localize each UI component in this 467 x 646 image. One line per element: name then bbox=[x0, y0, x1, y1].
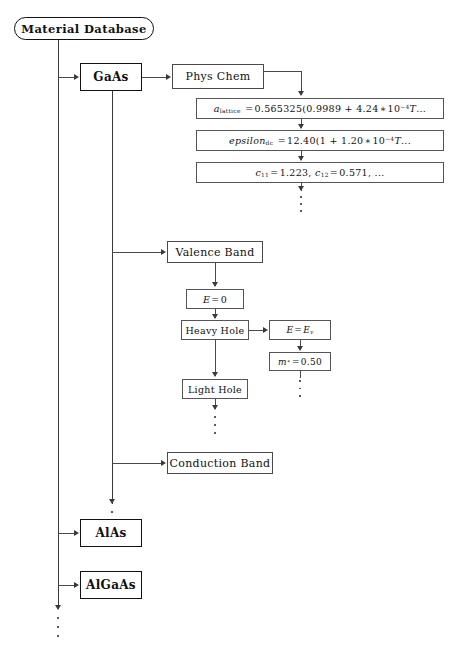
node-heavy-hole[interactable]: Heavy Hole bbox=[181, 320, 249, 340]
node-property-epsilon-dc[interactable]: epsilondc =12.40(1 + 1.20∗10−4T... bbox=[196, 130, 444, 151]
node-label-effective-mass: m∗=0.50 bbox=[278, 357, 322, 367]
diagram-canvas: Material Database GaAs Phys Chem alattic… bbox=[0, 0, 467, 646]
arrowhead-light-hole bbox=[212, 372, 218, 377]
arrowhead-physchem bbox=[166, 74, 171, 80]
node-label-property-epsilon-dc: epsilondc =12.40(1 + 1.20∗10−4T... bbox=[229, 135, 411, 146]
arrowhead-e0 bbox=[212, 282, 218, 287]
connector-physchem-down bbox=[301, 71, 302, 93]
node-gaas[interactable]: GaAs bbox=[80, 63, 142, 91]
connector-root-spine bbox=[58, 40, 59, 609]
node-label-property-elastic-constants: c11=1.223, c12=0.571, ... bbox=[255, 167, 384, 178]
ellipsis-after-light-hole bbox=[214, 416, 217, 434]
connector-gaas-to-conduction-band bbox=[112, 463, 161, 464]
connector-root-to-gaas bbox=[58, 77, 74, 78]
connector-effective-mass-to-ellipsis bbox=[300, 371, 301, 378]
ellipsis-after-phys-chem-properties bbox=[300, 196, 303, 212]
node-conduction-band[interactable]: Conduction Band bbox=[167, 452, 273, 474]
arrowhead-gaas bbox=[74, 74, 79, 80]
ellipsis-after-heavy-hole-properties bbox=[299, 380, 302, 397]
node-property-a-lattice[interactable]: alattice =0.565325(0.9989 + 4.24∗10−4T..… bbox=[196, 98, 444, 119]
node-alas[interactable]: AlAs bbox=[80, 519, 142, 547]
node-label-energy-zero: E=0 bbox=[203, 294, 227, 305]
node-label-gaas: GaAs bbox=[93, 70, 128, 84]
arrowhead-valence-band bbox=[161, 249, 166, 255]
arrowhead-property-ellipsis bbox=[298, 186, 304, 191]
arrowhead-property-3 bbox=[298, 156, 304, 161]
connector-gaas-to-physchem bbox=[142, 77, 166, 78]
node-effective-mass[interactable]: m∗=0.50 bbox=[269, 352, 331, 371]
node-property-elastic-constants[interactable]: c11=1.223, c12=0.571, ... bbox=[196, 162, 444, 183]
arrowhead-gaas-spine-bottom bbox=[109, 499, 115, 504]
node-label-heavy-hole: Heavy Hole bbox=[186, 325, 245, 336]
ellipsis-after-materials bbox=[57, 617, 60, 637]
node-label-algaas: AlGaAs bbox=[86, 578, 136, 592]
node-valence-edge-energy[interactable]: E=Ev bbox=[269, 320, 331, 340]
node-material-database[interactable]: Material Database bbox=[14, 17, 154, 40]
connector-root-to-algaas bbox=[58, 585, 74, 586]
node-valence-band[interactable]: Valence Band bbox=[167, 241, 263, 263]
node-label-light-hole: Light Hole bbox=[188, 384, 242, 395]
node-label-alas: AlAs bbox=[95, 526, 126, 540]
arrowhead-root-spine-bottom bbox=[55, 605, 61, 610]
node-energy-zero[interactable]: E=0 bbox=[186, 289, 244, 309]
connector-root-to-alas bbox=[58, 533, 74, 534]
connector-gaas-spine bbox=[112, 91, 113, 504]
node-label-property-a-lattice: alattice =0.565325(0.9989 + 4.24∗10−4T..… bbox=[214, 103, 426, 114]
node-light-hole[interactable]: Light Hole bbox=[182, 379, 248, 399]
arrowhead-heavy-hole bbox=[212, 314, 218, 319]
arrowhead-effective-mass bbox=[297, 346, 303, 351]
arrowhead-algaas bbox=[74, 582, 79, 588]
node-label-valence-band: Valence Band bbox=[175, 246, 254, 259]
arrowhead-ev bbox=[263, 327, 268, 333]
connector-heavy-hole-to-ev bbox=[249, 330, 263, 331]
node-phys-chem[interactable]: Phys Chem bbox=[172, 64, 264, 89]
connector-gaas-to-valence-band bbox=[112, 252, 161, 253]
arrowhead-light-hole-ellipsis bbox=[212, 405, 218, 410]
node-label-conduction-band: Conduction Band bbox=[170, 457, 271, 470]
arrowhead-conduction-band bbox=[161, 460, 166, 466]
node-label-valence-edge-energy: E=Ev bbox=[286, 325, 313, 335]
connector-heavy-hole-to-light-hole bbox=[215, 340, 216, 376]
node-label-phys-chem: Phys Chem bbox=[186, 70, 251, 83]
connector-physchem-right bbox=[264, 71, 301, 72]
node-algaas[interactable]: AlGaAs bbox=[80, 571, 142, 599]
arrowhead-alas bbox=[74, 530, 79, 536]
node-label-material-database: Material Database bbox=[21, 22, 146, 36]
arrowhead-property-1 bbox=[298, 91, 304, 96]
arrowhead-property-2 bbox=[298, 124, 304, 129]
